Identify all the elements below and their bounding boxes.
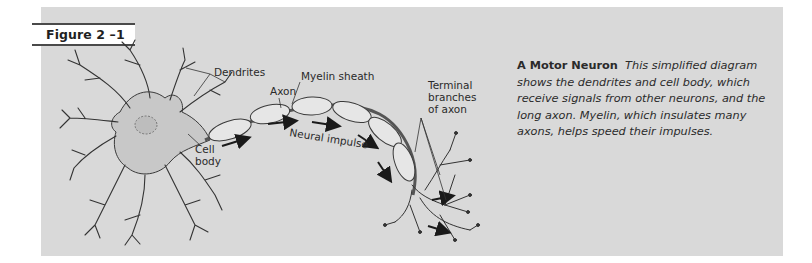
label-myelin-sheath: Myelin sheath <box>301 70 374 82</box>
axon <box>205 96 419 195</box>
label-neural-impulse: Neural impulse <box>289 126 369 150</box>
impulse-arrow <box>432 196 452 200</box>
impulse-arrow <box>312 122 338 126</box>
label-cell: Cell <box>195 143 215 155</box>
label-axon: Axon <box>270 85 296 97</box>
label-terminal-1: Terminal <box>427 79 472 91</box>
label-terminal-2: branches <box>428 91 476 103</box>
impulse-arrow <box>378 162 390 180</box>
label-terminal-3: of axon <box>428 103 467 115</box>
label-body: body <box>195 155 221 167</box>
caption-title: A Motor Neuron <box>517 59 618 72</box>
nucleus <box>135 116 157 134</box>
figure-caption: A Motor Neuron This simplified diagram s… <box>517 58 767 141</box>
impulse-arrow <box>428 226 448 232</box>
terminal-leader <box>415 118 446 200</box>
label-dendrites: Dendrites <box>214 66 265 78</box>
